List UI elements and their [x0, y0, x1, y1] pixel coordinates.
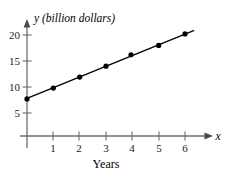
data-point	[156, 43, 161, 48]
data-point	[182, 31, 187, 36]
x-axis-label: x	[214, 130, 221, 142]
x-tick-label-1: 1	[50, 142, 56, 154]
x-axis-title: Years	[93, 157, 120, 171]
x-tick-label-3: 3	[103, 142, 109, 154]
data-point	[24, 96, 29, 101]
axes-group	[20, 19, 213, 148]
x-axis-tick-labels: 1 2 3 4 5 6	[50, 142, 188, 154]
y-axis-label: y (billion dollars)	[33, 12, 115, 25]
y-axis-tick-labels: 20 15 10 5	[9, 29, 21, 119]
chart-figure: 20 15 10 5 1 2 3 4 5 6 y (billion dollar…	[0, 0, 232, 175]
y-tick-label-20: 20	[9, 29, 21, 41]
y-axis-arrowhead	[24, 19, 31, 28]
data-point	[51, 85, 56, 90]
y-tick-label-15: 15	[9, 55, 21, 67]
x-tick-label-4: 4	[129, 142, 135, 154]
data-point	[103, 64, 108, 69]
y-tick-label-10: 10	[9, 81, 21, 93]
y-tick-label-5: 5	[15, 107, 21, 119]
data-point	[77, 75, 82, 80]
x-tick-label-5: 5	[156, 142, 162, 154]
x-tick-label-6: 6	[182, 142, 188, 154]
data-point	[128, 52, 133, 57]
x-axis-arrowhead	[205, 133, 214, 140]
data-points-group	[24, 31, 187, 101]
scatter-plot-svg: 20 15 10 5 1 2 3 4 5 6 y (billion dollar…	[0, 0, 232, 175]
x-tick-label-2: 2	[76, 142, 82, 154]
